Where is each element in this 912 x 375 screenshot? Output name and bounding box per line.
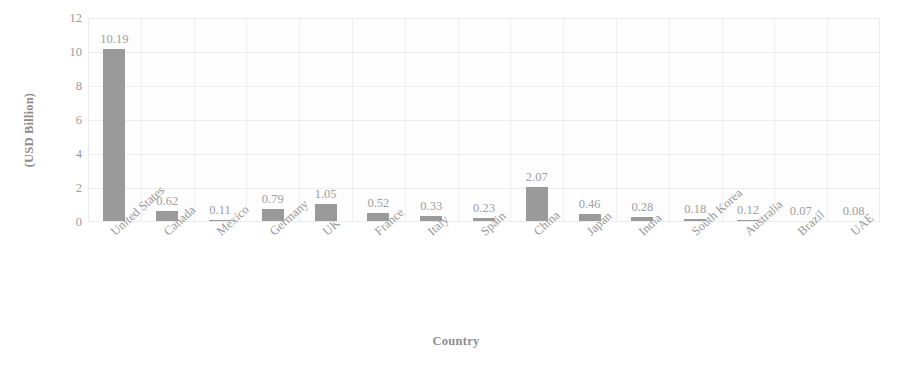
- bar-value-label: 0.52: [367, 196, 389, 211]
- y-axis-tick: 12: [70, 11, 83, 26]
- bar-value-label: 0.33: [420, 199, 442, 214]
- bar-slot: 0.23: [458, 18, 511, 222]
- y-axis-tick: 10: [70, 45, 83, 60]
- plot-area: 10.190.620.110.791.050.520.330.232.070.4…: [88, 18, 880, 222]
- bar-slot: 0.79: [246, 18, 299, 222]
- bar-value-label: 0.28: [631, 200, 653, 215]
- bar-slot: 10.19: [88, 18, 141, 222]
- y-axis-title: (USD Billion): [22, 55, 37, 205]
- bar-chart: (USD Billion) 121086420 10.190.620.110.7…: [0, 0, 912, 375]
- bar-slot: 2.07: [510, 18, 563, 222]
- y-axis-tick: 8: [76, 79, 82, 94]
- bar-slot: 0.33: [405, 18, 458, 222]
- y-axis-tick: 6: [76, 113, 82, 128]
- x-axis-category-labels: United StatesCanadaMexicoGermanyUKFrance…: [88, 222, 880, 322]
- x-axis-title: Country: [0, 334, 912, 349]
- bar-value-label: 10.19: [100, 32, 128, 47]
- bar-slot: 0.08: [827, 18, 880, 222]
- bar-slot: 0.46: [563, 18, 616, 222]
- bar-slot: 0.07: [774, 18, 827, 222]
- y-axis-tick: 4: [76, 147, 82, 162]
- bar-slot: 1.05: [299, 18, 352, 222]
- bar-value-label: 1.05: [315, 187, 337, 202]
- bar-value-label: 2.07: [526, 170, 548, 185]
- y-axis-tick: 2: [76, 181, 82, 196]
- bar-value-label: 0.79: [262, 192, 284, 207]
- bar-slot: 0.28: [616, 18, 669, 222]
- bar-slot: 0.11: [194, 18, 247, 222]
- y-axis-tick-labels: 121086420: [52, 18, 86, 222]
- bar-slot: 0.52: [352, 18, 405, 222]
- bars-layer: 10.190.620.110.791.050.520.330.232.070.4…: [88, 18, 880, 222]
- bar-value-label: 0.46: [579, 197, 601, 212]
- y-axis-tick: 0: [76, 215, 82, 230]
- bar: [103, 49, 125, 222]
- bar-slot: 0.18: [669, 18, 722, 222]
